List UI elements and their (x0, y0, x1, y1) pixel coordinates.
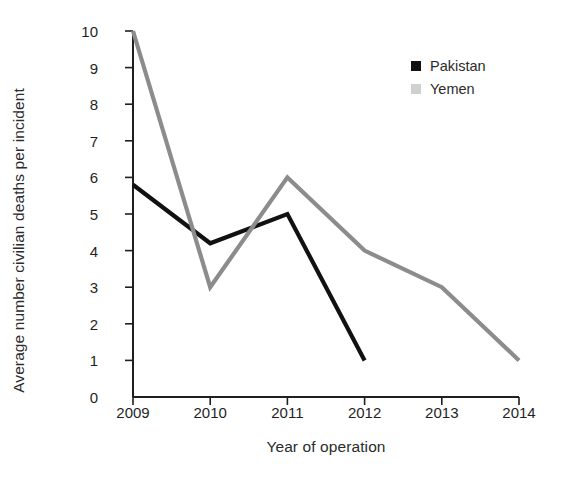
x-axis-tick-label: 2014 (489, 404, 549, 421)
legend-swatch-icon (411, 84, 421, 94)
x-axis-tick-label: 2011 (257, 404, 317, 421)
x-axis-tick-label: 2012 (335, 404, 395, 421)
y-axis-ticks (125, 31, 133, 360)
series-line-pakistan (133, 185, 365, 361)
legend-label: Yemen (430, 82, 475, 97)
x-axis-tick-label: 2009 (103, 404, 163, 421)
legend-swatch-icon (411, 61, 421, 71)
x-axis-title: Year of operation (96, 438, 556, 456)
chart-legend: PakistanYemen (411, 58, 486, 97)
x-axis-tick-label: 2010 (180, 404, 240, 421)
legend-item: Yemen (411, 81, 486, 97)
x-axis-title-text: Year of operation (266, 438, 385, 455)
legend-label: Pakistan (430, 59, 486, 74)
line-chart: Average number civilian deaths per incid… (0, 0, 585, 481)
legend-item: Pakistan (411, 58, 486, 74)
x-axis-tick-label: 2013 (412, 404, 472, 421)
